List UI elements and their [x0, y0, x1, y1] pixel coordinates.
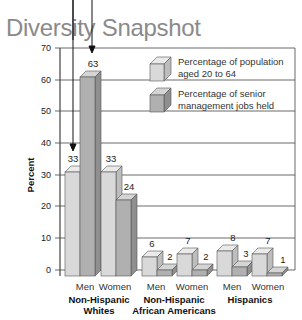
svg-text:0: 0: [46, 265, 51, 275]
svg-text:60: 60: [41, 75, 51, 85]
y-tick-labels: 0 10 20 30 40 50 60 70: [41, 43, 51, 275]
svg-text:40: 40: [41, 138, 51, 148]
svg-text:10: 10: [41, 233, 51, 243]
svg-text:2: 2: [167, 251, 172, 262]
svg-text:20: 20: [41, 201, 51, 211]
svg-text:Non-Hispanic: Non-Hispanic: [143, 294, 204, 305]
legend-text: Percentage of population aged 20 to 64 P…: [178, 56, 284, 111]
svg-text:Men: Men: [76, 281, 94, 292]
svg-text:33: 33: [68, 153, 79, 164]
svg-text:63: 63: [88, 58, 99, 69]
svg-text:2: 2: [203, 251, 208, 262]
svg-text:management jobs held: management jobs held: [178, 100, 274, 111]
svg-text:Women: Women: [176, 281, 209, 292]
svg-text:aged 20 to 64: aged 20 to 64: [178, 68, 236, 79]
group-labels: Non-Hispanic Whites Non-Hispanic African…: [68, 294, 272, 316]
svg-text:7: 7: [265, 235, 270, 246]
svg-text:Hispanics: Hispanics: [228, 294, 273, 305]
x-labels: Men Women Men Women Men Women: [76, 281, 285, 292]
svg-text:8: 8: [230, 232, 235, 243]
svg-text:Women: Women: [252, 281, 285, 292]
svg-text:7: 7: [185, 235, 190, 246]
svg-text:6: 6: [149, 238, 154, 249]
bar-chart: 0 10 20 30 40 50 60 70 Percent: [0, 0, 302, 320]
y-axis-label: Percent: [25, 157, 36, 193]
svg-text:Percentage of population: Percentage of population: [178, 56, 284, 67]
svg-text:Men: Men: [223, 281, 241, 292]
svg-text:30: 30: [41, 170, 51, 180]
svg-text:Women: Women: [99, 281, 132, 292]
svg-text:3: 3: [243, 248, 248, 259]
svg-text:Men: Men: [147, 281, 165, 292]
svg-text:50: 50: [41, 106, 51, 116]
svg-text:70: 70: [41, 43, 51, 53]
svg-text:Percentage of senior: Percentage of senior: [178, 88, 266, 99]
svg-text:African Americans: African Americans: [132, 305, 216, 316]
svg-text:Non-Hispanic: Non-Hispanic: [68, 294, 129, 305]
svg-text:24: 24: [124, 181, 135, 192]
svg-text:33: 33: [106, 153, 117, 164]
svg-text:Whites: Whites: [83, 305, 114, 316]
svg-text:1: 1: [280, 254, 285, 265]
legend: [150, 57, 171, 112]
